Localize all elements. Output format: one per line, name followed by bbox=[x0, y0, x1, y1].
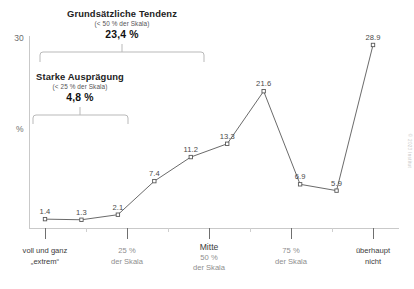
data-point-label: 13.3 bbox=[212, 132, 242, 141]
annotation-inner-value: 4,8 % bbox=[12, 92, 148, 103]
data-point-label: 21.6 bbox=[249, 79, 279, 88]
annotation-outer-subtitle: (< 50 % der Skala) bbox=[42, 20, 202, 27]
data-point-label: 1.4 bbox=[30, 207, 60, 216]
annotation-outer: Grundsätzliche Tendenz (< 50 % der Skala… bbox=[42, 8, 202, 40]
data-point-label: 11.2 bbox=[176, 145, 206, 154]
data-point-label: 7.4 bbox=[139, 169, 169, 178]
data-point-label: 6.9 bbox=[285, 172, 315, 181]
annotation-outer-value: 23,4 % bbox=[42, 29, 202, 40]
annotation-brackets bbox=[0, 0, 414, 289]
chart-root: 30 % voll und ganz „extrem“ 25 % der Ska… bbox=[0, 0, 414, 289]
annotation-outer-title: Grundsätzliche Tendenz bbox=[42, 8, 202, 19]
annotation-inner-title: Starke Ausprägung bbox=[12, 71, 148, 82]
data-point-label: 1.3 bbox=[66, 208, 96, 217]
annotation-inner-subtitle: (< 25 % der Skala) bbox=[12, 83, 148, 90]
data-point-label: 2.1 bbox=[103, 203, 133, 212]
annotation-inner: Starke Ausprägung (< 25 % der Skala) 4,8… bbox=[12, 71, 148, 103]
data-point-label: 5.9 bbox=[322, 179, 352, 188]
data-point-label: 28.9 bbox=[358, 33, 388, 42]
watermark-text: © 2023 Institut bbox=[407, 134, 412, 168]
